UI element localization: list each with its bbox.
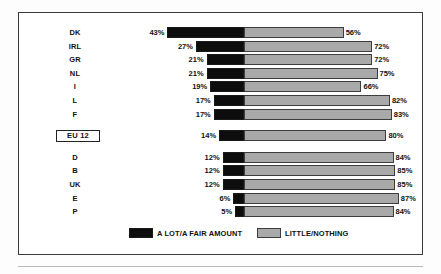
value-label-left: 14% — [177, 130, 216, 141]
bar-segment-a-lot — [210, 81, 244, 92]
bar-segment-little-nothing — [244, 193, 399, 204]
legend-label: LITTLE/NOTHING — [285, 229, 348, 238]
bar-segment-little-nothing — [244, 95, 390, 106]
chart-row: EU 1214%80% — [19, 130, 422, 141]
bar-segment-little-nothing — [244, 41, 372, 52]
value-label-left: 5% — [193, 206, 232, 217]
bar-segment-little-nothing — [244, 27, 344, 38]
value-label-left: 43% — [125, 27, 164, 38]
chart-row: IRL27%72% — [19, 41, 422, 52]
category-label-b: B — [39, 165, 111, 176]
bar-segment-a-lot — [219, 130, 244, 141]
bar-segment-little-nothing — [244, 109, 392, 120]
category-label-nl: NL — [39, 68, 111, 79]
bar-segment-a-lot — [233, 193, 244, 204]
value-label-left: 21% — [165, 68, 204, 79]
value-label-left: 17% — [172, 95, 211, 106]
value-label-left: 12% — [181, 152, 220, 163]
value-label-right: 56% — [346, 27, 361, 38]
bar-segment-little-nothing — [244, 206, 394, 217]
legend-item-a-lot-fair-amount: A LOT/A FAIR AMOUNT — [129, 227, 242, 239]
value-label-right: 72% — [374, 54, 389, 65]
value-label-right: 87% — [401, 193, 416, 204]
chart-row: F17%83% — [19, 109, 422, 120]
chart-row: NL21%75% — [19, 68, 422, 79]
category-label-d: D — [39, 152, 111, 163]
value-label-right: 84% — [396, 206, 411, 217]
category-label-f: F — [39, 109, 111, 120]
bar-segment-a-lot — [207, 54, 244, 65]
bar-segment-little-nothing — [244, 179, 395, 190]
value-label-left: 6% — [191, 193, 230, 204]
bottom-divider — [18, 266, 423, 267]
value-label-right: 84% — [396, 152, 411, 163]
category-label-e: E — [39, 193, 111, 204]
category-label-p: P — [39, 206, 111, 217]
value-label-right: 82% — [392, 95, 407, 106]
chart-row: E6%87% — [19, 193, 422, 204]
bar-segment-little-nothing — [244, 165, 395, 176]
bar-segment-a-lot — [223, 179, 244, 190]
value-label-left: 19% — [168, 81, 207, 92]
chart-row: B12%85% — [19, 165, 422, 176]
bar-segment-a-lot — [235, 206, 244, 217]
bar-segment-little-nothing — [244, 130, 386, 141]
bar-segment-a-lot — [196, 41, 244, 52]
category-label-dk: DK — [39, 27, 111, 38]
value-label-right: 75% — [380, 68, 395, 79]
value-label-left: 12% — [181, 179, 220, 190]
chart-row: UK12%85% — [19, 179, 422, 190]
bar-segment-little-nothing — [244, 54, 372, 65]
value-label-right: 72% — [374, 41, 389, 52]
value-label-left: 17% — [172, 109, 211, 120]
chart-legend: A LOT/A FAIR AMOUNTLITTLE/NOTHING — [19, 227, 422, 241]
value-label-right: 80% — [388, 130, 403, 141]
legend-label: A LOT/A FAIR AMOUNT — [157, 229, 242, 238]
bar-segment-a-lot — [214, 95, 244, 106]
chart-row: I19%66% — [19, 81, 422, 92]
bar-segment-a-lot — [167, 27, 244, 38]
chart-row: D12%84% — [19, 152, 422, 163]
chart-row: L17%82% — [19, 95, 422, 106]
chart-row: P5%84% — [19, 206, 422, 217]
legend-swatch-gray — [257, 228, 281, 238]
bar-segment-little-nothing — [244, 81, 361, 92]
bar-segment-a-lot — [223, 152, 244, 163]
chart-plot-area: DK43%56%IRL27%72%GR21%72%NL21%75%I19%66%… — [19, 13, 422, 254]
category-label-eu-12: EU 12 — [56, 130, 100, 142]
category-label-gr: GR — [39, 54, 111, 65]
category-label-uk: UK — [39, 179, 111, 190]
value-label-right: 85% — [397, 165, 412, 176]
legend-swatch-black — [129, 228, 153, 238]
chart-frame: DK43%56%IRL27%72%GR21%72%NL21%75%I19%66%… — [18, 12, 423, 255]
bar-segment-little-nothing — [244, 68, 378, 79]
bar-segment-a-lot — [214, 109, 244, 120]
bar-segment-a-lot — [207, 68, 244, 79]
legend-item-little-nothing: LITTLE/NOTHING — [257, 227, 348, 239]
figure-page: DK43%56%IRL27%72%GR21%72%NL21%75%I19%66%… — [0, 0, 441, 274]
value-label-left: 21% — [165, 54, 204, 65]
chart-row: GR21%72% — [19, 54, 422, 65]
value-label-left: 27% — [154, 41, 193, 52]
bar-segment-little-nothing — [244, 152, 394, 163]
chart-row: DK43%56% — [19, 27, 422, 38]
category-label-l: L — [39, 95, 111, 106]
bar-segment-a-lot — [223, 165, 244, 176]
category-label-i: I — [39, 81, 111, 92]
value-label-right: 66% — [363, 81, 378, 92]
value-label-right: 85% — [397, 179, 412, 190]
value-label-left: 12% — [181, 165, 220, 176]
category-label-irl: IRL — [39, 41, 111, 52]
value-label-right: 83% — [394, 109, 409, 120]
